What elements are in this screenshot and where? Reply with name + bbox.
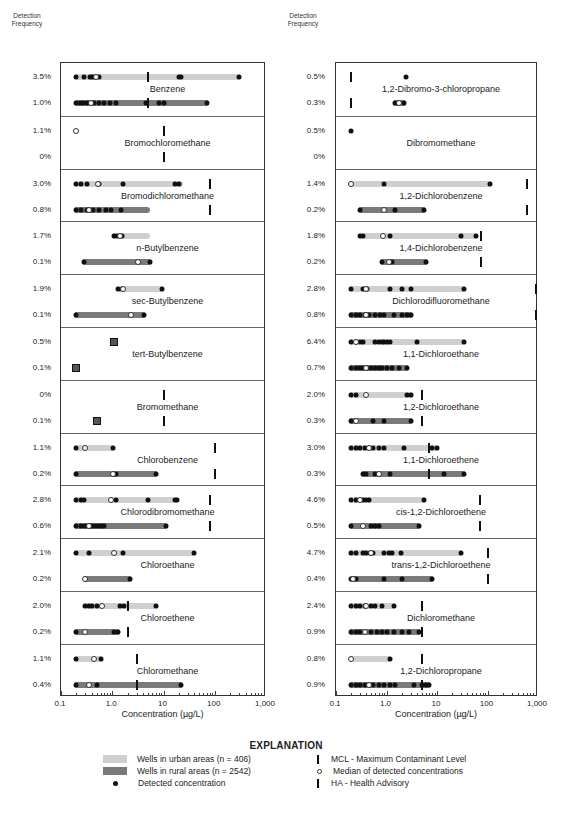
axis-tick bbox=[92, 693, 93, 695]
rural-detection-frequency: 0.7% bbox=[287, 363, 325, 372]
detected-concentration-marker bbox=[192, 551, 197, 556]
detected-concentration-marker bbox=[435, 445, 440, 450]
median-marker bbox=[350, 576, 356, 582]
axis-tick bbox=[429, 693, 430, 695]
axis-tick bbox=[239, 693, 240, 695]
detected-concentration-marker bbox=[361, 340, 366, 345]
median-marker bbox=[86, 523, 92, 529]
detected-concentration-marker bbox=[423, 260, 428, 265]
detected-concentration-marker bbox=[421, 498, 426, 503]
x-tick-label: 100 bbox=[480, 699, 493, 708]
urban-detection-frequency: 2.1% bbox=[13, 548, 51, 557]
mcl-marker bbox=[535, 310, 537, 320]
compound-panel: 2.0%0.3%1,2-Dichloroethane bbox=[336, 380, 536, 433]
median-marker bbox=[363, 312, 369, 318]
urban-detection-frequency: 0.5% bbox=[13, 337, 51, 346]
rural-range-bar bbox=[349, 576, 434, 582]
compound-name: Bromodichloromethane bbox=[121, 191, 214, 201]
x-tick-label: 10 bbox=[158, 699, 167, 708]
legend-swatch bbox=[103, 755, 127, 763]
detected-concentration-marker bbox=[474, 234, 479, 239]
axis-tick bbox=[148, 693, 149, 695]
x-tick-label: 1.0 bbox=[106, 699, 117, 708]
median-marker bbox=[386, 259, 392, 265]
detected-concentration-marker bbox=[93, 417, 101, 425]
rural-detection-frequency: 0.1% bbox=[13, 310, 51, 319]
axis-tick bbox=[203, 693, 204, 695]
rural-detection-frequency: 0.3% bbox=[287, 469, 325, 478]
detected-concentration-marker bbox=[382, 181, 387, 186]
axis-tick bbox=[104, 693, 105, 695]
detected-concentration-marker bbox=[390, 366, 395, 371]
mcl-marker bbox=[209, 179, 211, 189]
compound-name: n-Butylbenzene bbox=[136, 243, 199, 253]
detected-concentration-marker bbox=[114, 101, 119, 106]
detected-concentration-marker bbox=[408, 313, 413, 318]
urban-detection-frequency: 4.6% bbox=[287, 495, 325, 504]
header-line: Detection bbox=[6, 12, 48, 20]
x-axis-label: Concentration (µg/L) bbox=[395, 709, 477, 719]
compound-panel: 1.1%0%Bromochloromethane bbox=[61, 116, 264, 169]
detected-concentration-marker bbox=[487, 181, 492, 186]
detected-concentration-marker bbox=[161, 101, 166, 106]
urban-detection-frequency: 1.4% bbox=[287, 179, 325, 188]
detected-concentration-marker bbox=[388, 471, 393, 476]
axis-tick bbox=[387, 691, 388, 695]
detected-concentration-marker bbox=[382, 682, 387, 687]
axis-tick bbox=[488, 691, 489, 695]
detected-concentration-marker bbox=[86, 551, 91, 556]
compound-panel: 2.0%0.2%Chloroethene bbox=[61, 591, 264, 644]
mcl-marker bbox=[421, 680, 423, 690]
detected-concentration-marker bbox=[81, 498, 86, 503]
detected-concentration-marker bbox=[411, 682, 416, 687]
median-marker bbox=[381, 207, 387, 213]
urban-detection-frequency: 1.1% bbox=[13, 126, 51, 135]
axis-tick bbox=[512, 693, 513, 695]
axis-tick bbox=[360, 693, 361, 695]
detected-concentration-marker bbox=[382, 313, 387, 318]
compound-name: 1,2-Dibromo-3-chloropropane bbox=[382, 84, 500, 94]
detected-concentration-marker bbox=[81, 75, 86, 80]
detected-concentration-marker bbox=[417, 524, 422, 529]
detected-concentration-marker bbox=[163, 524, 168, 529]
axis-tick bbox=[536, 693, 537, 695]
median-marker bbox=[88, 100, 94, 106]
median-marker bbox=[363, 365, 369, 371]
compound-panel: 1.4%0.2%1,2-Dichlorobenzene bbox=[336, 169, 536, 222]
axis-tick bbox=[112, 691, 113, 695]
detected-concentration-marker bbox=[94, 682, 99, 687]
detected-concentration-marker bbox=[116, 630, 121, 635]
detected-concentration-marker bbox=[114, 498, 119, 503]
detected-concentration-marker bbox=[179, 75, 184, 80]
median-marker bbox=[135, 259, 141, 265]
detected-concentration-marker bbox=[349, 524, 354, 529]
detected-concentration-marker bbox=[204, 101, 209, 106]
detected-concentration-marker bbox=[361, 234, 366, 239]
median-marker bbox=[128, 312, 134, 318]
detected-concentration-marker bbox=[408, 418, 413, 423]
rural-detection-frequency: 0.4% bbox=[13, 680, 51, 689]
detected-concentration-marker bbox=[430, 577, 435, 582]
rural-detection-frequency: 0.8% bbox=[13, 205, 51, 214]
detected-concentration-marker bbox=[110, 338, 118, 346]
median-marker bbox=[82, 629, 88, 635]
detected-concentration-marker bbox=[349, 128, 354, 133]
axis-tick bbox=[351, 693, 352, 695]
axis-tick bbox=[230, 693, 231, 695]
detected-concentration-marker bbox=[408, 287, 413, 292]
urban-detection-frequency: 1.8% bbox=[287, 231, 325, 240]
rural-detection-frequency: 0.2% bbox=[13, 627, 51, 636]
detected-concentration-marker bbox=[142, 313, 147, 318]
mcl-marker bbox=[209, 521, 211, 531]
detected-concentration-marker bbox=[102, 101, 107, 106]
median-marker bbox=[91, 656, 97, 662]
axis-tick bbox=[435, 693, 436, 695]
detected-concentration-marker bbox=[176, 181, 181, 186]
compound-name: 1,1-Dichloroethane bbox=[403, 349, 479, 359]
detected-concentration-marker bbox=[127, 577, 132, 582]
detected-concentration-marker bbox=[379, 260, 384, 265]
axis-tick bbox=[402, 693, 403, 695]
rural-detection-frequency: 0.3% bbox=[287, 416, 325, 425]
compound-name: Chlorobenzene bbox=[137, 455, 198, 465]
axis-tick bbox=[472, 693, 473, 695]
